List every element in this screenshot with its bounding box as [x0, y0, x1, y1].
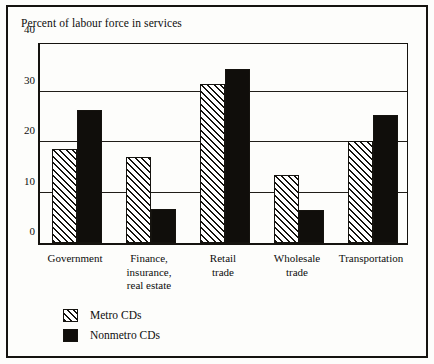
nonmetro-bar: [151, 209, 176, 243]
x-axis-category-label: Finance, insurance, real estate: [112, 252, 186, 293]
chart-legend: Metro CDsNonmetro CDs: [63, 305, 160, 345]
x-axis-category-label: Government: [38, 252, 112, 266]
x-axis-category-label: Retail trade: [186, 252, 260, 279]
hatched-swatch: [63, 309, 78, 322]
legend-item-label: Nonmetro CDs: [90, 329, 160, 341]
y-axis-tick-label: 40: [24, 23, 35, 35]
metro-bar: [126, 157, 151, 243]
y-axis-tick-label: 0: [30, 225, 36, 237]
bar-group: [336, 44, 410, 243]
y-axis-tick-label: 20: [24, 124, 35, 136]
legend-item: Metro CDs: [63, 305, 160, 325]
nonmetro-bar: [77, 110, 102, 243]
nonmetro-bar: [299, 210, 324, 243]
y-axis-tick-label: 30: [24, 74, 35, 86]
metro-bar: [52, 149, 77, 243]
y-axis-tick-label: 10: [24, 175, 35, 187]
bar-group: [40, 44, 114, 243]
plot-area: 010203040: [38, 43, 408, 245]
x-axis-category-label: Wholesale trade: [260, 252, 334, 279]
bar-series-container: [40, 44, 407, 243]
metro-bar: [200, 84, 225, 243]
metro-bar: [348, 141, 373, 243]
chart-figure: Percent of labour force in services 0102…: [0, 0, 434, 364]
nonmetro-bar: [225, 69, 250, 243]
chart-title: Percent of labour force in services: [21, 17, 182, 29]
metro-bar: [274, 175, 299, 243]
bar-group: [114, 44, 188, 243]
legend-item-label: Metro CDs: [90, 309, 141, 321]
solid-black-swatch: [63, 329, 78, 342]
bar-group: [262, 44, 336, 243]
bar-group: [188, 44, 262, 243]
x-axis-category-label: Transportation: [334, 252, 408, 266]
nonmetro-bar: [373, 115, 398, 243]
legend-item: Nonmetro CDs: [63, 325, 160, 345]
